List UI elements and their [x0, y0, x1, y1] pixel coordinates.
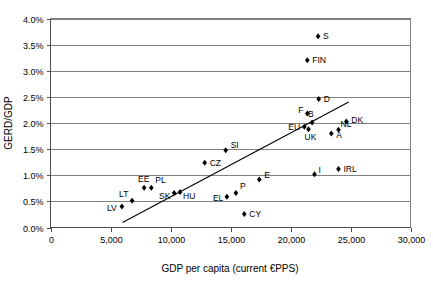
regression-line — [123, 102, 349, 222]
data-point-marker — [316, 96, 321, 102]
chart-canvas: 05,00010,00015,00020,00025,00030,000 0.0… — [0, 0, 433, 282]
gridlines — [51, 20, 411, 202]
data-point-label: SI — [231, 140, 239, 150]
data-point-marker — [130, 198, 135, 204]
y-tick-label: 0.5% — [23, 197, 44, 207]
scatter-chart: 05,00010,00015,00020,00025,00030,000 0.0… — [0, 0, 433, 282]
data-point-marker — [305, 57, 310, 63]
data-point-label: EE — [138, 174, 150, 184]
data-point-marker — [329, 130, 334, 136]
data-point-label: CY — [249, 209, 261, 219]
data-point-marker — [202, 160, 207, 166]
data-point-label: D — [324, 94, 330, 104]
y-tick-label: 0.0% — [23, 224, 44, 234]
data-point-label: LV — [107, 203, 117, 213]
data-point-label: E — [264, 170, 270, 180]
data-point-marker — [142, 185, 147, 191]
data-point-marker — [316, 33, 321, 39]
data-point-label: A — [336, 130, 342, 140]
y-tick-label: 3.5% — [23, 41, 44, 51]
y-tick-label: 3.0% — [23, 67, 44, 77]
data-point-label: EU — [288, 122, 300, 132]
data-point-label: S — [323, 31, 329, 41]
data-point-label: B — [308, 109, 314, 119]
data-point-marker — [234, 190, 239, 196]
x-tick-label: 20,000 — [278, 235, 306, 245]
x-axis: 05,00010,00015,00020,00025,00030,000 — [49, 228, 425, 245]
data-point-marker — [242, 211, 247, 217]
x-axis-title: GDP per capita (current €PPS) — [161, 263, 298, 274]
x-tick-label: 25,000 — [338, 235, 366, 245]
data-point-marker — [223, 147, 228, 153]
y-tick-label: 1.5% — [23, 145, 44, 155]
x-tick-label: 5,000 — [100, 235, 123, 245]
data-point-marker — [336, 166, 341, 172]
data-point-label: PL — [155, 175, 166, 185]
data-point-label: P — [240, 181, 246, 191]
data-point-marker — [120, 204, 125, 210]
y-axis-title: GERD/GDP — [3, 96, 14, 150]
data-point-marker — [257, 176, 262, 182]
trend-line — [123, 102, 349, 222]
point-labels: LVLTEEPLSKHUCZSIELPCYEIIRLEUUKBFDANLDKFI… — [107, 31, 364, 219]
data-point-label: IRL — [344, 164, 358, 174]
data-point-marker — [178, 189, 183, 195]
x-tick-label: 15,000 — [218, 235, 246, 245]
data-point-label: SK — [159, 191, 171, 201]
data-point-label: UK — [305, 132, 317, 142]
data-point-label: NL — [341, 119, 352, 129]
data-point-label: CZ — [210, 158, 221, 168]
data-point-label: DK — [351, 115, 363, 125]
y-axis: 0.0%0.5%1.0%1.5%2.0%2.5%3.0%3.5%4.0% — [23, 15, 51, 234]
data-point-label: EL — [213, 193, 224, 203]
data-point-marker — [225, 194, 230, 200]
y-tick-label: 4.0% — [23, 15, 44, 25]
data-point-label: HU — [183, 191, 195, 201]
data-point-label: FIN — [312, 55, 326, 65]
data-point-label: LT — [119, 189, 128, 199]
y-tick-label: 2.0% — [23, 119, 44, 129]
data-point-marker — [172, 190, 177, 196]
y-tick-label: 2.5% — [23, 93, 44, 103]
data-point-marker — [149, 185, 154, 191]
data-point-label: I — [319, 165, 321, 175]
data-point-label: F — [298, 105, 303, 115]
data-point-marker — [312, 171, 317, 177]
x-tick-label: 10,000 — [158, 235, 186, 245]
x-tick-label: 30,000 — [398, 235, 426, 245]
y-tick-label: 1.0% — [23, 171, 44, 181]
x-tick-label: 0 — [49, 235, 54, 245]
